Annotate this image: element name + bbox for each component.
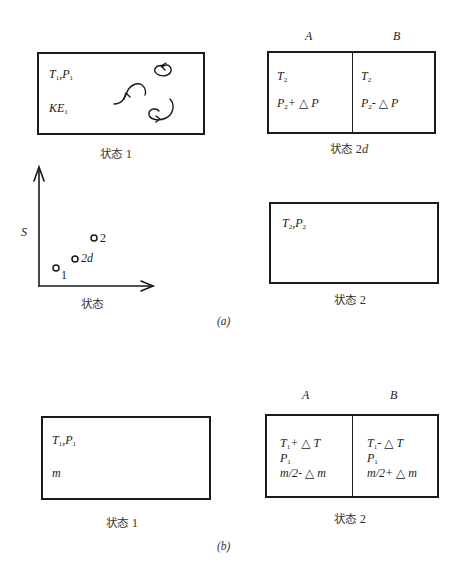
caption-number: 2 [360,512,366,526]
state2-box-b: T1+ △ T P1 m/2- △ m T1- △ T P1 m/2+ △ m [265,414,439,498]
state2-box-a: T2,P2 [269,202,439,284]
t-symbol: T [280,436,287,450]
temperature-delta: + △ T [290,436,320,450]
caption-number: 2 [360,293,366,307]
t-symbol: T [282,216,289,230]
x-axis-label: 状态 [81,295,103,311]
point-1-label: 1 [61,268,67,283]
state2-caption-a: 状态 2 [334,291,366,308]
point-2d-label: 2d [81,251,93,266]
panel-a-label: (a) [217,315,230,327]
state2-header-b-b: B [390,388,397,403]
t-symbol: T [52,433,59,447]
state2b-right-mass: m/2+ △ m [367,466,417,481]
state1-box-b: T1,P1 m [41,416,211,500]
caption-text: 状态 [106,516,128,530]
temperature-delta: - △ T [377,436,403,450]
y-axis-label: S [21,225,27,240]
state2b-left-temp: T1+ △ T [280,436,320,451]
t-symbol: T [367,436,374,450]
state2b-left-mass: m/2- △ m [280,466,326,481]
partition-divider [352,416,353,496]
caption-number: 1 [132,516,138,530]
state2b-right-pressure: P1 [367,451,378,466]
state2-caption-b: 状态 2 [334,510,366,527]
caption-text: 状态 [334,293,356,307]
point-2-marker [91,235,97,241]
state1-mass-b: m [52,466,61,481]
state1-caption-b: 状态 1 [106,514,138,531]
state1-temp-pressure-b: T1,P1 [52,433,76,448]
point-2-label: 2 [100,231,106,246]
p-subscript: 1 [374,458,378,466]
p-subscript: 2 [303,223,307,231]
state2b-right-temp: T1- △ T [367,436,403,451]
state2-header-a-b: A [302,388,309,403]
p-subscript: 1 [287,458,291,466]
state2-temp-pressure: T2,P2 [282,216,306,231]
caption-text: 状态 [334,512,356,526]
p-symbol: P [295,216,302,230]
point-1-marker [53,265,59,271]
panel-b-label: (b) [217,540,230,552]
state2b-left-pressure: P1 [280,451,291,466]
p-subscript: 1 [73,440,77,448]
point-2d-marker [72,256,78,262]
p-symbol: P [65,433,72,447]
